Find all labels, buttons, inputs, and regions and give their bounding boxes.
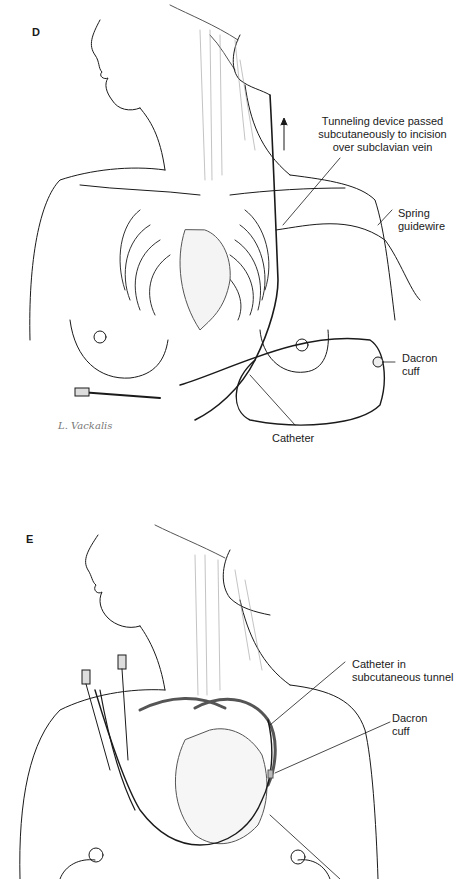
tunneling-device-label: Tunneling device passed subcutaneously t… [295, 115, 470, 154]
panel-d: D Tunneling device passed subcutaneously… [0, 0, 471, 440]
panel-e-letter: E [26, 533, 33, 545]
panel-d-letter: D [32, 26, 40, 38]
catheter-tunnel-label: Catheter in subcutaneous tunnel [352, 658, 454, 684]
artist-signature: L. Vackalis [58, 420, 112, 431]
spring-guidewire-label: Spring guidewire [398, 207, 445, 233]
dacron-cuff-label-d: Dacron cuff [402, 352, 437, 378]
dacron-cuff-label-e: Dacron cuff [392, 712, 427, 738]
panel-e: E Catheter in subcutaneous tunnel Dacron… [0, 440, 471, 879]
